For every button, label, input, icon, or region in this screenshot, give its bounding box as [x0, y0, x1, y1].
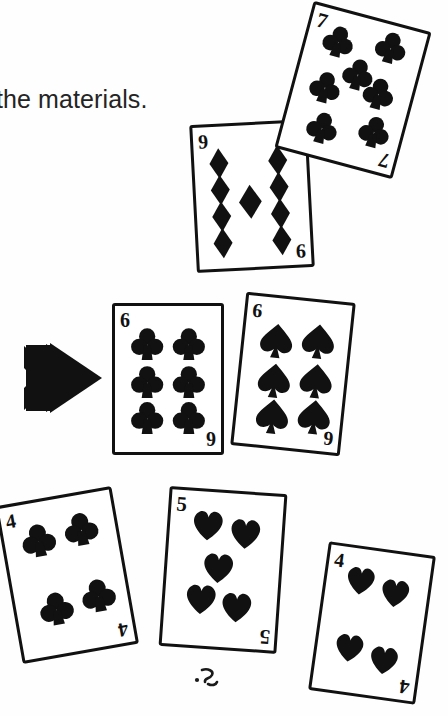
card-6-spades[interactable]: 6 6 [230, 292, 355, 457]
card-6-clubs[interactable]: 6 6 [112, 303, 224, 455]
pip-layout-clubs-6 [115, 306, 221, 452]
card-5-hearts[interactable]: 5 5 [159, 486, 288, 654]
card-4-hearts[interactable]: 4 4 [308, 541, 436, 705]
caption-text: the materials. [0, 84, 147, 114]
double-chevron-arrow-icon [20, 340, 106, 416]
figure-canvas: the materials. 9 9 7 7 [0, 0, 448, 716]
card-4-clubs[interactable]: 4 4 [0, 486, 139, 664]
pip-layout-clubs-4 [0, 489, 136, 660]
card-7-clubs[interactable]: 7 7 [274, 1, 431, 179]
pip-layout-hearts-5 [162, 489, 284, 650]
stray-pencil-mark [188, 664, 228, 692]
pip-layout-spades-6 [234, 295, 353, 453]
pip-layout-hearts-4 [311, 545, 432, 702]
pip-layout-clubs-7 [278, 4, 428, 175]
